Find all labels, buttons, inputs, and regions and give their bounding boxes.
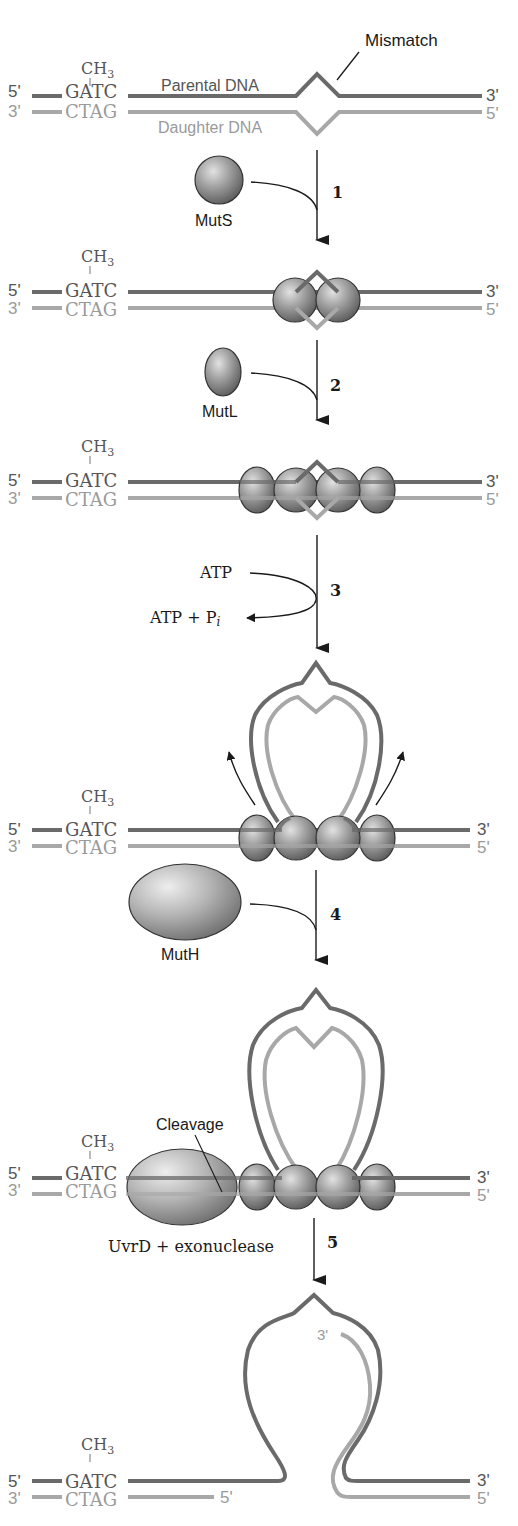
loop-daughter: [267, 697, 366, 822]
svg-text:CH3: CH3: [81, 59, 114, 81]
svg-text:5': 5': [477, 838, 490, 857]
stage-5: 3' CH3 5' 3' GATC CTAG 5' 3' 5': [8, 1295, 490, 1510]
uvrd-label: UvrD + exonuclease: [108, 1237, 274, 1256]
svg-text:CTAG: CTAG: [65, 837, 117, 858]
loop-parental: [251, 663, 381, 822]
stage-4: Cleavage CH3 5' 3' GATC CTAG 3' 5': [8, 990, 490, 1225]
step-2: MutL 2: [202, 340, 341, 420]
svg-text:3': 3': [477, 820, 490, 839]
svg-text:CTAG: CTAG: [65, 1181, 117, 1202]
svg-text:GATC: GATC: [65, 280, 117, 301]
cleavage-label: Cleavage: [156, 1116, 224, 1133]
step-1: MutS 1: [195, 150, 343, 240]
svg-text:GATC: GATC: [65, 470, 117, 491]
muth-protein: [129, 864, 241, 940]
svg-text:3': 3': [8, 299, 21, 318]
svg-text:3': 3': [477, 1168, 490, 1187]
svg-text:CTAG: CTAG: [65, 299, 117, 320]
atp-label: ATP: [199, 563, 232, 582]
daughter-strand-remaining: [333, 1334, 470, 1497]
muts-right: [316, 468, 360, 512]
muts-protein: [195, 156, 243, 204]
svg-text:CTAG: CTAG: [65, 1489, 117, 1510]
step-5-number: 5: [327, 1233, 338, 1252]
ctag-label: CTAG: [65, 101, 117, 122]
svg-text:3': 3': [8, 1181, 21, 1200]
mismatch-label: Mismatch: [365, 31, 438, 50]
step-4: MutH 4: [129, 864, 341, 963]
svg-text:5': 5': [8, 281, 21, 300]
cut-five-prime-label: 5': [220, 1488, 233, 1507]
muth-label: MutH: [161, 946, 199, 963]
mismatch-pointer: [337, 52, 359, 80]
svg-text:3': 3': [486, 472, 499, 491]
parental-dna-label: Parental DNA: [161, 77, 259, 94]
svg-text:CH3: CH3: [81, 247, 114, 269]
step-4-number: 4: [330, 905, 341, 924]
step-3: ATP ATP + Pi 3: [149, 535, 341, 648]
five-prime-label: 5': [8, 82, 21, 101]
stage-0: Mismatch CH3 5' 3' GATC CTAG Parental DN…: [8, 31, 499, 136]
stage-1: CH3 5' 3' GATC CTAG 3' 5': [8, 247, 499, 328]
svg-text:3': 3': [486, 282, 499, 301]
svg-text:5': 5': [486, 104, 499, 123]
mutl-protein: [205, 348, 241, 396]
svg-text:CTAG: CTAG: [65, 489, 117, 510]
svg-text:3': 3': [477, 1471, 490, 1490]
mutl-left: [239, 467, 275, 513]
step-2-number: 2: [330, 376, 341, 395]
muth-bound: [127, 1149, 237, 1225]
svg-text:5': 5': [486, 300, 499, 319]
svg-text:CH3: CH3: [81, 1132, 114, 1154]
svg-text:3': 3': [8, 489, 21, 508]
svg-text:3': 3': [486, 86, 499, 105]
stage-2: CH3 5' 3' GATC CTAG 3' 5': [8, 437, 499, 518]
muts-label: MutS: [195, 212, 232, 229]
step-3-number: 3: [330, 581, 341, 600]
atp-hydrolysis-arrow: [247, 573, 316, 618]
svg-text:5': 5': [8, 471, 21, 490]
muts-bound-left: [273, 278, 317, 322]
svg-text:CH3: CH3: [81, 1435, 114, 1457]
parental-strand-final: [128, 1295, 470, 1481]
step-5: UvrD + exonuclease 5: [108, 1218, 338, 1280]
mismatch-repair-diagram: Mismatch CH3 5' 3' GATC CTAG Parental DN…: [0, 0, 518, 1526]
mutl-right: [359, 467, 395, 513]
muts-left: [274, 468, 318, 512]
svg-text:5': 5': [477, 1186, 490, 1205]
mutl-label: MutL: [202, 403, 238, 420]
gatc-label: GATC: [65, 81, 117, 102]
daughter-dna-label: Daughter DNA: [158, 119, 262, 136]
svg-text:CH3: CH3: [81, 437, 114, 459]
svg-text:5': 5': [477, 1489, 490, 1508]
three-prime-label: 3': [8, 102, 21, 121]
muts-bound-right: [316, 278, 360, 322]
svg-text:CH3: CH3: [81, 787, 114, 809]
loop-three-prime-label: 3': [317, 1326, 328, 1343]
svg-text:5': 5': [486, 490, 499, 509]
stage-3: CH3 5' 3' GATC CTAG 3' 5': [8, 663, 490, 861]
atp-products-label: ATP + Pi: [149, 608, 220, 629]
svg-text:3': 3': [8, 837, 21, 856]
svg-text:3': 3': [8, 1489, 21, 1508]
step-1-number: 1: [332, 183, 343, 202]
